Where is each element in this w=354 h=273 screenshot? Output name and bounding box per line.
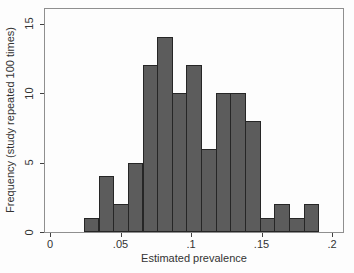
histogram-bar [289, 218, 305, 232]
y-axis-tick [40, 24, 44, 25]
y-axis-tick-label: 15 [23, 9, 36, 39]
x-axis-tick [191, 233, 192, 237]
histogram-bar [186, 65, 202, 232]
y-axis-tick-label: 10 [23, 78, 36, 108]
histogram-bar [172, 93, 188, 232]
x-axis-tick-label: .2 [315, 238, 349, 250]
y-axis-tick-label: 0 [23, 217, 36, 247]
y-axis-tick [40, 232, 44, 233]
x-axis-tick [262, 233, 263, 237]
histogram-bar [245, 121, 261, 232]
histogram-bar [201, 149, 217, 232]
x-axis-tick-label: 0 [33, 238, 67, 250]
histogram-bar [128, 163, 144, 233]
y-axis-title: Frequency (study repeated 100 times) [4, 7, 18, 233]
x-axis-tick-label: .1 [174, 238, 208, 250]
histogram-bar [157, 37, 173, 232]
plot-area [44, 8, 344, 233]
histogram-bar [274, 204, 290, 232]
histogram-bar [84, 218, 100, 232]
histogram-figure: Estimated prevalence Frequency (study re… [0, 0, 354, 273]
histogram-bar [216, 93, 232, 232]
y-axis-tick [40, 93, 44, 94]
x-axis-tick [50, 233, 51, 237]
x-axis-tick [332, 233, 333, 237]
histogram-bar [304, 204, 320, 232]
y-axis-tick-label: 5 [23, 148, 36, 178]
x-axis-tick [121, 233, 122, 237]
x-axis-tick-label: .15 [245, 238, 279, 250]
x-axis-title: Estimated prevalence [104, 252, 284, 264]
histogram-bar [143, 65, 159, 232]
histogram-bar [260, 218, 276, 232]
x-axis-tick-label: .05 [104, 238, 138, 250]
histogram-bar [113, 204, 129, 232]
histogram-bar [230, 93, 246, 232]
histogram-bar [99, 176, 115, 232]
y-axis-tick [40, 163, 44, 164]
